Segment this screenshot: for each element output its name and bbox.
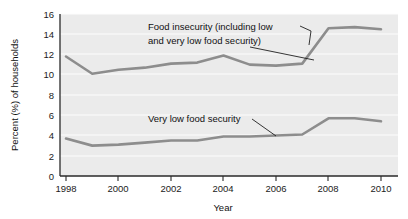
chart-figure: 16 14 12 10 8 6 4 2 0 1998 2000 2002: [0, 0, 408, 219]
y-tick-8: 8: [49, 90, 54, 101]
y-tick-0: 0: [49, 171, 54, 182]
y-tick-4: 4: [49, 130, 54, 141]
x-tick-2000: 2000: [107, 183, 128, 194]
y-tick-12: 12: [43, 49, 54, 60]
x-tick-1998: 1998: [55, 183, 76, 194]
very-low-food-security-annotation-line1: Very low food security: [148, 113, 241, 124]
y-tick-14: 14: [43, 29, 54, 40]
y-tick-6: 6: [49, 110, 54, 121]
y-tick-10: 10: [43, 69, 54, 80]
y-tick-16: 16: [43, 9, 54, 20]
y-axis-tick-labels: 16 14 12 10 8 6 4 2 0: [43, 9, 54, 182]
x-axis-ticks: [66, 176, 381, 181]
x-tick-2004: 2004: [212, 183, 233, 194]
x-tick-2006: 2006: [265, 183, 286, 194]
food-insecurity-annotation-line2: and very low food security): [148, 35, 261, 46]
y-tick-2: 2: [49, 151, 54, 162]
x-axis-tick-labels: 1998 2000 2002 2004 2006 2008 2010: [55, 183, 391, 194]
x-axis-title: Year: [213, 202, 232, 213]
x-tick-2010: 2010: [370, 183, 391, 194]
line-chart: 16 14 12 10 8 6 4 2 0 1998 2000 2002: [0, 0, 408, 219]
x-tick-2002: 2002: [160, 183, 181, 194]
y-axis-title: Percent (%) of households: [9, 39, 20, 151]
x-tick-2008: 2008: [317, 183, 338, 194]
food-insecurity-annotation-line1: Food insecurity (including low: [148, 21, 273, 32]
